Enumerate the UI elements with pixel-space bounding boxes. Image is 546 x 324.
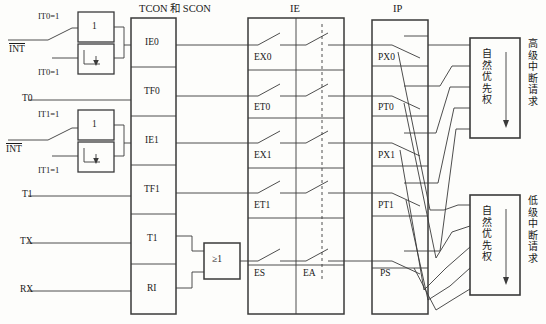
sw-pt1-arm — [392, 193, 420, 206]
interrupt-system-diagram: TCON 和 SCON IE IP INT T0 INT T1 TX RX IT… — [0, 0, 546, 324]
vertical-char: 请 — [527, 84, 539, 96]
sw-et0-arm — [258, 84, 280, 96]
sw-ea2-arm — [306, 131, 328, 143]
ip-bit-px1: PX1 — [378, 151, 395, 161]
box-high-priority — [470, 38, 520, 138]
ie-bit-es: ES — [254, 269, 265, 279]
input-label-t0: T0 — [22, 94, 33, 104]
vertical-char: 求 — [527, 253, 539, 265]
ie-bit-et0: ET0 — [254, 103, 270, 113]
box-low-priority — [470, 195, 520, 295]
diagram-canvas — [0, 0, 546, 324]
title-ip: IP — [393, 4, 402, 15]
ie-bit-et1: ET1 — [254, 201, 270, 211]
vertical-char: 中 — [527, 61, 539, 73]
low-priority-outer-text: 低级中断请求 — [527, 195, 539, 264]
input-label-t1: T1 — [22, 190, 33, 200]
vertical-char: 断 — [527, 230, 539, 242]
vertical-char: 权 — [481, 94, 493, 106]
sw-px0-arm — [392, 45, 420, 58]
wire-pt1-low — [406, 200, 470, 300]
ip-bit-pt0: PT0 — [378, 103, 394, 113]
ip-bit-px0: PX0 — [378, 53, 395, 63]
low-priority-inner-text: 自然优先权 — [481, 205, 493, 263]
sw-et1-arm — [258, 181, 280, 193]
wire-px0-low — [398, 52, 470, 210]
mode-label-it1-edge: IT1=1 — [38, 110, 59, 119]
vertical-char: 低 — [527, 195, 539, 207]
vertical-char: 中 — [527, 218, 539, 230]
vertical-char: 级 — [527, 50, 539, 62]
title-ie: IE — [290, 4, 300, 15]
vertical-char: 请 — [527, 241, 539, 253]
tcon-flag-tf1: TF1 — [144, 185, 160, 195]
high-priority-inner-text: 自然优先权 — [481, 48, 493, 106]
mode-label-it0-level: IT0=1 — [38, 68, 59, 77]
wire-int1-switch-arm — [48, 128, 72, 140]
or-gate-label: ≥1 — [212, 255, 222, 265]
vertical-char: 然 — [481, 60, 493, 72]
sw-ea4-arm — [306, 249, 328, 261]
vertical-char: 权 — [481, 251, 493, 263]
input-label-int1: INT — [6, 143, 22, 154]
wire-px1-high — [428, 87, 470, 133]
tcon-flag-ri: RI — [147, 284, 157, 294]
arrow-low-priority-head — [503, 277, 509, 285]
vertical-char: 先 — [481, 83, 493, 95]
box-glyph-int1-edge: 1 — [92, 120, 97, 130]
wire-pt1-high — [428, 108, 470, 183]
vertical-char: 然 — [481, 217, 493, 229]
wire-int0-switch-arm — [48, 28, 72, 40]
vertical-char: 级 — [527, 207, 539, 219]
tcon-flag-tf0: TF0 — [144, 87, 160, 97]
sw-es-arm — [258, 249, 280, 261]
vertical-char: 求 — [527, 96, 539, 108]
tcon-flag-ti: T1 — [147, 234, 158, 244]
mode-label-it0-edge: IT0=1 — [38, 12, 59, 21]
wire-pt0-high — [428, 66, 470, 86]
sw-px1-arm — [392, 143, 420, 156]
sw-pt0-arm — [392, 96, 420, 109]
vertical-char: 优 — [481, 228, 493, 240]
sw-ex1-arm — [258, 131, 280, 143]
box-tcon-scon — [131, 18, 176, 314]
sw-ea0-arm — [306, 33, 328, 45]
vertical-char: 断 — [527, 73, 539, 85]
input-label-int0: INT — [9, 43, 25, 54]
ie-bit-ex0: EX0 — [254, 53, 271, 63]
ie-bit-ex1: EX1 — [254, 151, 271, 161]
mode-label-it1-level: IT1=1 — [38, 166, 59, 175]
glyph-int1-level-arrow — [93, 158, 99, 164]
vertical-char: 先 — [481, 240, 493, 252]
sw-ea3-arm — [306, 181, 328, 193]
wire-ps-high — [428, 129, 470, 251]
high-priority-outer-text: 高级中断请求 — [527, 38, 539, 107]
glyph-int0-level-arrow — [93, 60, 99, 66]
vertical-char: 优 — [481, 71, 493, 83]
arrow-high-priority-head — [503, 120, 509, 128]
input-label-rx: RX — [20, 285, 33, 295]
tcon-flag-ie0: IE0 — [145, 38, 159, 48]
box-glyph-int0-edge: 1 — [92, 22, 97, 32]
ie-bit-ea: EA — [303, 269, 316, 279]
sw-ex0-arm — [258, 33, 280, 45]
vertical-char: 高 — [527, 38, 539, 50]
vertical-char: 自 — [481, 48, 493, 60]
input-label-tx: TX — [20, 237, 33, 247]
sw-ea1-arm — [306, 84, 328, 96]
title-tcon-scon: TCON 和 SCON — [139, 4, 211, 15]
tcon-flag-ie1: IE1 — [145, 136, 159, 146]
ip-bit-ps: PS — [380, 269, 391, 279]
vertical-char: 自 — [481, 205, 493, 217]
ip-bit-pt1: PT1 — [378, 201, 394, 211]
box-or-gate — [204, 243, 240, 279]
